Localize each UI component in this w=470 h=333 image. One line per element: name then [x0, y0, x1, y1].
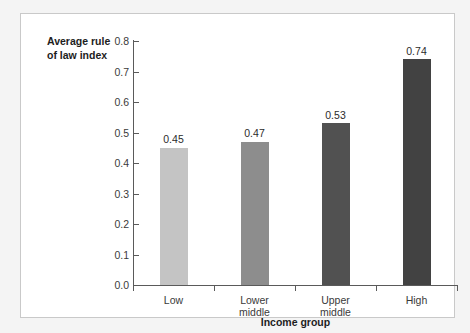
y-axis-tick-label: 0.2: [95, 219, 129, 230]
chart-frame: Average rule of law index 0.80.70.60.50.…: [20, 13, 455, 318]
x-axis-tick-mark: [457, 286, 458, 291]
y-axis-tick-label: 0.7: [95, 67, 129, 78]
x-axis-tick-mark: [214, 286, 215, 291]
x-axis-title: Income group: [133, 317, 458, 328]
y-axis-tick-label: 0.3: [95, 189, 129, 200]
bar-value-label: 0.45: [163, 134, 183, 145]
x-axis-tick-mark: [133, 286, 134, 291]
y-axis-tick-label: 0.5: [95, 128, 129, 139]
bar: 0.45: [160, 148, 188, 285]
bar: 0.53: [322, 123, 350, 285]
x-axis-tick-mark: [295, 286, 296, 291]
bar-value-label: 0.47: [244, 128, 264, 139]
bar-value-label: 0.53: [325, 110, 345, 121]
x-axis-tick-mark: [376, 286, 377, 291]
y-axis-tick-label: 0.1: [95, 250, 129, 261]
plot-area: 0.450.470.530.74: [133, 41, 457, 285]
x-axis-category-label: High: [376, 294, 457, 306]
y-axis-tick-labels: 0.80.70.60.50.40.30.20.10.0: [91, 14, 129, 314]
y-axis-tick-label: 0.6: [95, 97, 129, 108]
y-axis-tick-mark: [134, 285, 139, 286]
bar: 0.47: [241, 142, 269, 285]
x-axis-category-label: Upper middle: [295, 294, 376, 318]
bar-value-label: 0.74: [406, 46, 426, 57]
x-axis-category-label: Lower middle: [214, 294, 295, 318]
y-axis-tick-label: 0.4: [95, 158, 129, 169]
y-axis-tick-label: 0.0: [95, 280, 129, 291]
y-axis-tick-label: 0.8: [95, 36, 129, 47]
bar: 0.74: [403, 59, 431, 285]
x-axis-category-label: Low: [133, 294, 214, 306]
